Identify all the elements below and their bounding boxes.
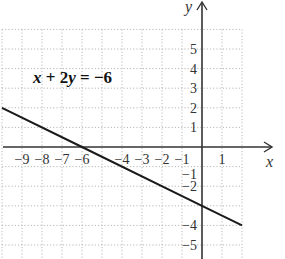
x-tick-label: −6 <box>75 152 90 167</box>
x-tick-label: −9 <box>15 152 30 167</box>
x-tick-label: −8 <box>35 152 50 167</box>
y-tick-label: −5 <box>182 238 197 253</box>
y-tick-label: −2 <box>182 179 197 194</box>
x-tick-label: −3 <box>135 152 150 167</box>
y-axis-label: y <box>183 0 193 16</box>
y-tick-label: −4 <box>182 218 197 233</box>
graph: x y −9−8−7−6−4−3−2−11 54321−1−2−4−5 x + … <box>0 0 285 259</box>
y-tick-label: 1 <box>190 120 197 135</box>
x-tick-label: −7 <box>55 152 70 167</box>
x-tick-label: −1 <box>175 152 190 167</box>
equation-label: x + 2y = −6 <box>32 68 112 87</box>
y-tick-label: 4 <box>190 62 197 77</box>
y-tick-label: 5 <box>190 42 197 57</box>
x-tick-label: −2 <box>155 152 170 167</box>
x-tick-label: 1 <box>219 152 226 167</box>
y-tick-label: 2 <box>190 101 197 116</box>
x-axis-label: x <box>265 153 273 170</box>
grid <box>2 29 242 259</box>
y-tick-label: 3 <box>190 81 197 96</box>
